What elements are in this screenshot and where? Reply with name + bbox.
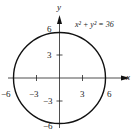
x-axis-label: x bbox=[126, 73, 130, 82]
y-axis-label: y bbox=[57, 3, 61, 12]
y-tick-label-neg3: −3 bbox=[43, 97, 53, 106]
x-tick-label-neg6: −6 bbox=[1, 90, 11, 99]
x-tick-label-3: 3 bbox=[80, 90, 85, 99]
equation-label: x² + y² = 36 bbox=[75, 21, 114, 29]
y-axis-arrow-icon bbox=[57, 15, 62, 24]
x-tick-label-neg3: −3 bbox=[29, 90, 39, 99]
y-tick-label-6: 6 bbox=[47, 25, 52, 34]
y-tick-label-neg6: −6 bbox=[43, 122, 53, 131]
circle-plot bbox=[0, 0, 135, 132]
x-tick-label-6: 6 bbox=[107, 90, 112, 99]
y-tick-label-3: 3 bbox=[47, 51, 52, 60]
